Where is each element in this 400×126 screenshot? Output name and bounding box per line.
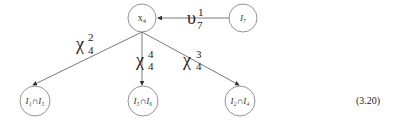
svg-text:4: 4 [196,60,202,72]
edge-label-upsilon-7-1: υ 1 7 [187,6,204,31]
svg-text:χ: χ [135,50,144,70]
node-i1-cap-i3: I₁∩I₃ [20,86,50,116]
tree-diagram: x₄ I₇ I₁∩I₃ I₅∩I₆ I₂∩I₄ υ 1 7 χ 2 4 χ 4 … [0,0,400,126]
node-i5-cap-i6: I₅∩I₆ [128,86,158,116]
svg-text:2: 2 [88,31,94,43]
svg-text:I₂∩I₄: I₂∩I₄ [230,96,250,106]
svg-text:I₁∩I₃: I₁∩I₃ [25,96,45,106]
svg-text:7: 7 [197,19,203,31]
node-x4: x₄ [128,4,156,32]
node-i2-cap-i4: I₂∩I₄ [225,86,255,116]
svg-text:χ: χ [182,50,191,70]
svg-text:I₇: I₇ [239,13,246,23]
svg-text:x₄: x₄ [138,12,147,23]
svg-text:1: 1 [198,6,204,18]
svg-text:3: 3 [196,48,202,60]
svg-text:υ: υ [187,8,196,28]
edge-label-chi-4-4: χ 4 4 [135,48,154,72]
node-i7: I₇ [229,4,257,32]
equation-number: (3.20) [356,95,380,106]
svg-text:4: 4 [148,60,154,72]
edge-label-chi-4-3: χ 3 4 [182,48,202,72]
svg-text:4: 4 [88,44,94,56]
svg-text:4: 4 [148,48,154,60]
edge-label-chi-4-2: χ 2 4 [75,31,94,56]
svg-text:I₅∩I₆: I₅∩I₆ [133,96,153,106]
svg-text:χ: χ [75,34,84,54]
